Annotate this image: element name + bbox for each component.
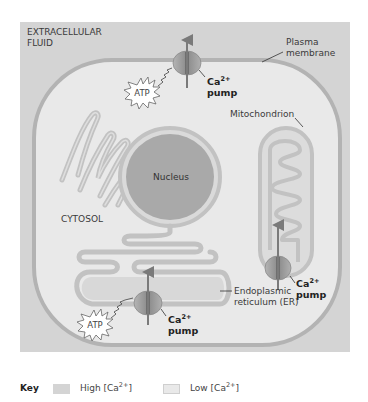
- atp-text-1: ATP: [134, 88, 149, 98]
- mitochondrion-outer-membrane: [260, 128, 312, 276]
- extracellular-fluid-label: EXTRACELLULAR FLUID: [27, 27, 102, 49]
- legend-label-low-ca: Low [Ca2+]: [190, 383, 239, 393]
- legend-swatch-high-ca: [53, 384, 70, 394]
- calcium-pump-diagram: ATP ATP EXTRACELLULAR: [0, 0, 368, 402]
- plasma-membrane-pump-label: Ca2+ pump: [207, 76, 237, 98]
- er-label: Endoplasmic reticulum (ER): [234, 286, 299, 308]
- mitochondrion-label: Mitochondrion: [230, 109, 294, 120]
- cell-illustration: ATP ATP: [0, 0, 368, 402]
- er-pump-label: Ca2+ pump: [168, 314, 198, 336]
- mitochondrion-pump-label: Ca2+ pump: [296, 278, 326, 300]
- nucleus-label: Nucleus: [153, 172, 189, 183]
- legend-title: Key: [20, 383, 39, 393]
- legend: Key High [Ca2+] Low [Ca2+]: [0, 383, 368, 397]
- legend-swatch-low-ca: [163, 384, 180, 394]
- atp-text-2: ATP: [87, 320, 102, 330]
- plasma-membrane-label: Plasma membrane: [286, 37, 335, 59]
- legend-label-high-ca: High [Ca2+]: [80, 383, 132, 393]
- cytosol-label: CYTOSOL: [61, 214, 103, 225]
